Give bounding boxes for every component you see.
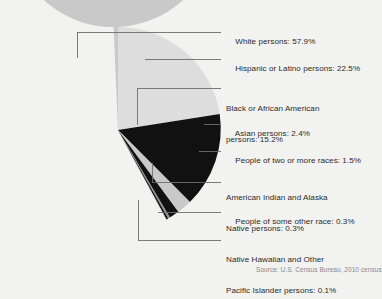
callout-line-1: Black or African American: [226, 104, 319, 114]
callout-line-1: People of some other race: 0.3%: [235, 217, 354, 226]
slice-hispanic-latino-persons: [118, 27, 220, 130]
callout-line-1: People of two or more races: 1.5%: [235, 156, 361, 165]
pie-slices: [10, 0, 220, 220]
callout-line-1: Hispanic or Latino persons: 22.5%: [235, 64, 360, 73]
callout-line-1: White persons: 57.9%: [235, 37, 315, 46]
callout-line-1: Native Hawaiian and Other: [226, 255, 336, 265]
callout-line-2: Pacific Islander persons: 0.1%: [226, 286, 336, 296]
callout-line-1: American Indian and Alaska: [226, 193, 328, 203]
callout-label-hispanic-latino: Hispanic or Latino persons: 22.5%: [226, 54, 360, 85]
source-note: Source: U.S. Census Bureau, 2010 census: [256, 266, 382, 274]
callout-line-1: Asian persons: 2.4%: [235, 129, 310, 138]
